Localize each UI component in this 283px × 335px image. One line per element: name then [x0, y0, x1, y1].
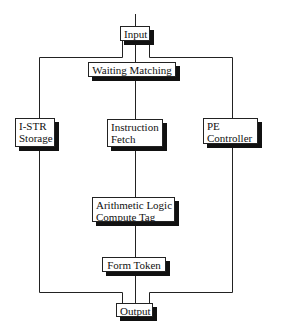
pe-controller-node: PE Controller — [203, 118, 258, 144]
waiting-matching-node: Waiting Matching — [88, 62, 176, 77]
form-token-node: Form Token — [102, 257, 166, 272]
istr-storage-label-line1: I-STR — [19, 120, 51, 132]
alu-compute-tag-node: Arithmetic Logic Compute Tag — [92, 197, 175, 222]
instruction-fetch-label-line1: Instruction — [111, 121, 159, 133]
form-token-label: Form Token — [106, 259, 162, 271]
alu-label-line2: Compute Tag — [96, 211, 171, 223]
istr-storage-node: I-STR Storage — [15, 118, 55, 147]
instruction-fetch-node: Instruction Fetch — [107, 119, 163, 147]
pe-controller-label-line2: Controller — [207, 132, 254, 144]
input-node: Input — [120, 26, 150, 41]
input-label: Input — [124, 28, 146, 40]
waiting-matching-label: Waiting Matching — [92, 64, 172, 76]
output-node: Output — [116, 303, 153, 317]
dataflow-pe-diagram: Input Waiting Matching I-STR Storage Ins… — [0, 0, 283, 335]
alu-label-line1: Arithmetic Logic — [96, 199, 171, 211]
connector-lines — [0, 0, 283, 335]
istr-storage-label-line2: Storage — [19, 132, 51, 144]
instruction-fetch-label-line2: Fetch — [111, 133, 159, 145]
pe-controller-label-line1: PE — [207, 120, 254, 132]
output-label: Output — [120, 305, 149, 317]
